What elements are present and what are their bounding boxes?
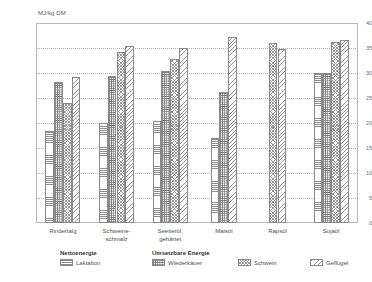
legend-label-wiederkaeuer: Wiederkäuer [168,260,202,266]
x-label-line1: Seetieröl, [143,228,197,236]
gridline-5 [36,198,358,199]
legend-item-wiederkaeuer[interactable]: Wiederkäuer [152,259,202,266]
bar-sojaöl-schwein [331,42,340,224]
bar-schweineschmalz-geflügel [125,46,134,223]
legend-swatch-schwein-icon [238,259,251,266]
bar-rindertalg-wiederkäuer [54,82,63,223]
bar-schweineschmalz-laktation [99,123,108,223]
bar-sojaöl-laktation [314,73,323,223]
x-axis-label-5: Sojaöl [304,228,358,236]
x-label-line1: Maisöl [197,228,251,236]
bar-rindertalg-laktation [45,131,54,224]
x-label-line2: gehärtet [143,236,197,244]
bar-rapsöl-geflügel [278,49,287,224]
bar-rindertalg-schwein [63,103,72,224]
x-axis-label-2: Seetieröl,gehärtet [143,228,197,243]
gridline-10 [36,173,358,174]
gridline-15 [36,148,358,149]
bar-maisöl-geflügel [228,37,237,223]
legend-item-laktation[interactable]: Laktation [60,259,100,266]
x-label-line1: Schweine- [90,228,144,236]
y-axis-title: MJ/kg DM [38,10,66,16]
legend-swatch-gefluegel-icon [310,259,323,266]
gridline-35 [36,48,358,49]
x-axis-label-3: Maisöl [197,228,251,236]
legend-item-gefluegel[interactable]: Geflügel [310,259,348,266]
chart-legend: Nettoenergie Umsetzbare Energie Laktatio… [0,250,372,270]
legend-swatch-laktation-icon [60,259,73,266]
bar-schweineschmalz-wiederkäuer [108,76,117,224]
legend-heading-umsetzbare-energie: Umsetzbare Energie [152,250,210,256]
bar-seetierölgehärtet-schwein [170,59,179,224]
bar-maisöl-laktation [211,138,220,223]
bar-seetierölgehärtet-geflügel [179,48,188,224]
x-axis-label-0: Rindertalg [36,228,90,236]
bar-schweineschmalz-schwein [117,52,126,223]
bar-seetierölgehärtet-laktation [153,121,162,223]
legend-swatch-wiederkaeuer-icon [152,259,165,266]
bar-sojaöl-wiederkäuer [322,73,331,223]
bar-sojaöl-geflügel [340,40,349,223]
bar-maisöl-wiederkäuer [219,92,228,224]
bar-seetierölgehärtet-wiederkäuer [161,71,170,223]
bar-rapsöl-schwein [269,43,278,223]
x-label-line1: Rapsöl [251,228,305,236]
x-axis-label-1: Schweine-schmalz [90,228,144,243]
x-label-line1: Rindertalg [36,228,90,236]
chart-container: MJ/kg DM 0510152025303540 RindertalgSchw… [0,0,372,282]
x-label-line2: schmalz [90,236,144,244]
legend-label-laktation: Laktation [76,260,100,266]
gridline-30 [36,73,358,74]
gridline-25 [36,98,358,99]
legend-item-schwein[interactable]: Schwein [238,259,277,266]
x-label-line1: Sojaöl [304,228,358,236]
legend-heading-nettoenergie: Nettoenergie [60,250,97,256]
y-tick-label-40: 40 [342,20,372,26]
legend-label-schwein: Schwein [254,260,277,266]
bar-rindertalg-geflügel [72,77,81,223]
legend-label-gefluegel: Geflügel [326,260,348,266]
x-axis-label-4: Rapsöl [251,228,305,236]
gridline-20 [36,123,358,124]
